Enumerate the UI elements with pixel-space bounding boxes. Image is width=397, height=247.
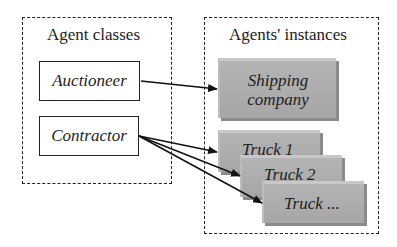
- arrow-contractor-to-truckn: [139, 136, 262, 203]
- arrow-contractor-to-truck2: [139, 136, 240, 176]
- arrow-auctioneer-to-shipping: [141, 81, 217, 89]
- edge-arrows: [0, 0, 397, 247]
- arrow-contractor-to-truck1: [139, 136, 217, 152]
